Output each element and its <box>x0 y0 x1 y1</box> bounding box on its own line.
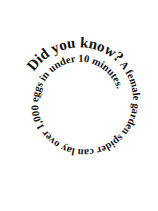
spiral-text-graphic: Did you know? A female garden spider can… <box>0 0 158 211</box>
spiral-text: Did you know? A female garden spider can… <box>23 34 142 158</box>
fact-text: A female garden spider can lay over 1,00… <box>29 53 142 159</box>
